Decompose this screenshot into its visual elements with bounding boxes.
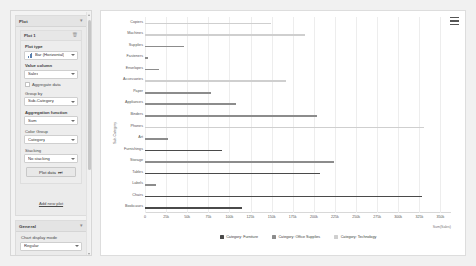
chevron-down-icon — [71, 158, 75, 160]
bar-row — [145, 127, 451, 128]
stacking-select[interactable]: No stacking — [24, 154, 78, 163]
bar-row — [145, 103, 451, 104]
sidebar-scrollbar[interactable] — [86, 12, 90, 256]
bar-row — [145, 23, 451, 24]
group-by-select[interactable]: Sub-Category — [24, 97, 78, 106]
aggregate-data-checkbox-row[interactable]: Aggregate data — [25, 82, 78, 87]
y-axis-tick-label: Furnishings — [124, 148, 143, 152]
bar-row — [145, 196, 451, 197]
plot-data-button[interactable]: Plot data ⏭ — [26, 167, 76, 177]
x-axis-tick-label: 75k — [205, 215, 211, 219]
x-axis-tick-label: 350k — [437, 215, 445, 219]
aggregation-function-value: Sum — [28, 119, 37, 123]
plot-type-label: Plot type — [25, 44, 78, 49]
plot-1-body: Plot type Bar (Horizontal) Value column … — [21, 41, 81, 183]
add-new-plot-row: Add new plot — [20, 187, 82, 211]
bar[interactable] — [145, 115, 317, 117]
x-axis-tick-label: 25k — [163, 215, 169, 219]
general-panel-header[interactable]: General ▾ — [16, 221, 86, 232]
bar[interactable] — [145, 161, 334, 163]
sidebar-scrollbar-thumb[interactable] — [88, 20, 91, 170]
add-new-plot-link[interactable]: Add new plot — [39, 201, 63, 206]
x-axis-tick-label: 150k — [268, 215, 276, 219]
bar-row — [145, 115, 451, 116]
legend-item[interactable]: Category: Furniture — [220, 235, 258, 239]
x-axis-tick-label: 200k — [310, 215, 318, 219]
y-axis-tick-label: Storage — [130, 159, 143, 163]
x-axis-tick-label: 125k — [247, 215, 255, 219]
bar[interactable] — [145, 184, 156, 186]
bar[interactable] — [145, 138, 168, 140]
y-axis-title: Sub-Category — [113, 122, 117, 144]
x-axis-line — [145, 212, 451, 213]
y-axis-tick-label: Machines — [127, 32, 143, 36]
bar-row — [145, 80, 451, 81]
chevron-icon[interactable]: ▾ — [80, 19, 83, 24]
x-axis-title: Sum(Sales) — [145, 225, 451, 229]
trash-icon[interactable]: 🗑 — [72, 33, 78, 38]
x-axis-tick-label: 100k — [226, 215, 234, 219]
y-axis-tick-label: Binders — [130, 113, 143, 117]
y-axis-tick-label: Envelopes — [126, 67, 143, 71]
chevron-down-icon — [71, 139, 75, 141]
color-group-select[interactable]: Category — [24, 135, 78, 144]
plot-1-header[interactable]: Plot 1 🗑 — [21, 31, 81, 41]
x-axis-tick-label: 175k — [289, 215, 297, 219]
y-axis-tick-label: Art — [138, 136, 143, 140]
bar-row — [145, 207, 451, 208]
bar[interactable] — [145, 150, 222, 152]
bar-row — [145, 46, 451, 47]
chevron-icon[interactable]: ▾ — [80, 224, 83, 229]
x-axis-tick-label: 275k — [373, 215, 381, 219]
bar[interactable] — [145, 103, 236, 105]
plot-panel-title: Plot — [19, 19, 28, 24]
x-axis-tick-label: 225k — [331, 215, 339, 219]
general-panel-body: Chart display mode Regular — [16, 232, 86, 256]
bar[interactable] — [145, 80, 286, 82]
plot-panel-header[interactable]: Plot ▾ — [16, 16, 86, 27]
bar-row — [145, 92, 451, 93]
scroll-down-icon[interactable] — [88, 253, 90, 255]
x-axis-tick-label: 250k — [352, 215, 360, 219]
bar[interactable] — [145, 46, 184, 48]
legend-swatch — [272, 235, 276, 239]
chart-display-mode-select[interactable]: Regular — [20, 242, 82, 251]
y-axis-labels: CopiersMachinesSuppliesFastenersEnvelope… — [101, 17, 143, 213]
bar[interactable] — [145, 34, 305, 36]
bar-row — [145, 34, 451, 35]
y-axis-tick-label: Bookcases — [125, 205, 143, 209]
legend-item[interactable]: Category: Technology — [334, 235, 376, 239]
stacking-value: No stacking — [28, 157, 50, 161]
plot-type-select[interactable]: Bar (Horizontal) — [24, 51, 78, 60]
bar[interactable] — [145, 127, 424, 129]
plot-panel: Plot ▾ Plot 1 🗑 Plot type — [15, 15, 87, 216]
bar[interactable] — [145, 23, 271, 25]
value-column-select[interactable]: Sales — [24, 70, 78, 79]
bar-row — [145, 57, 451, 58]
chevron-down-icon — [75, 245, 79, 247]
bar[interactable] — [145, 207, 242, 209]
aggregate-data-checkbox[interactable] — [25, 82, 30, 87]
scroll-up-icon[interactable] — [88, 14, 90, 16]
bar[interactable] — [145, 173, 320, 175]
settings-sidebar: Plot ▾ Plot 1 🗑 Plot type — [10, 10, 92, 256]
chevron-down-icon — [71, 54, 75, 56]
plot-configuration-app: Plot ▾ Plot 1 🗑 Plot type — [0, 0, 476, 266]
stacking-label: Stacking — [25, 148, 78, 153]
x-axis-tick-label: 300k — [394, 215, 402, 219]
color-group-label: Color Group — [25, 129, 78, 134]
bar[interactable] — [145, 57, 148, 59]
x-axis-tick-label: 325k — [415, 215, 423, 219]
bar[interactable] — [145, 69, 159, 71]
y-axis-tick-label: Copiers — [130, 21, 143, 25]
chart-legend: Category: FurnitureCategory: Office Supp… — [145, 235, 451, 239]
legend-item[interactable]: Category: Office Supplies — [272, 235, 320, 239]
aggregation-function-select[interactable]: Sum — [24, 116, 78, 125]
hamburger-menu-icon[interactable] — [450, 17, 459, 25]
y-axis-tick-label: Paper — [133, 90, 143, 94]
bar-row — [145, 161, 451, 162]
bar[interactable] — [145, 92, 211, 94]
chevron-down-icon — [71, 101, 75, 103]
bar[interactable] — [145, 196, 422, 198]
legend-swatch — [220, 235, 224, 239]
